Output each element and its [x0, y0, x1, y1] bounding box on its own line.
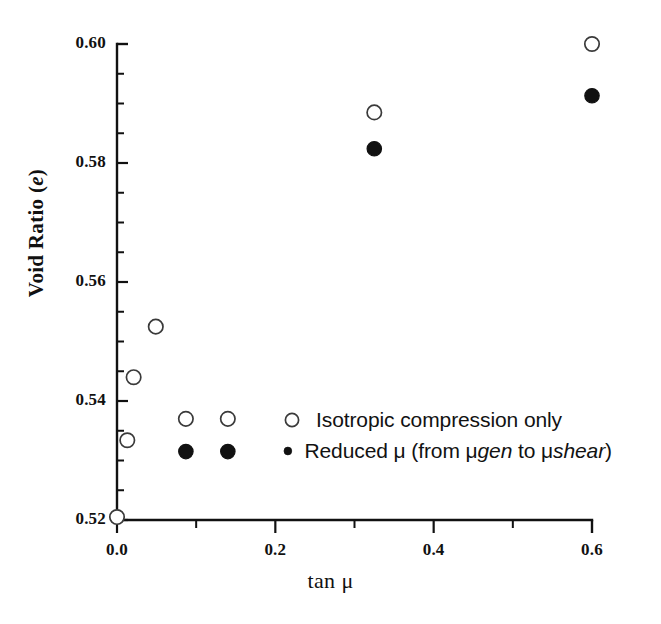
data-point-open-circle — [221, 412, 235, 426]
y-axis-title-wrapper: Void Ratio (e) — [19, 123, 53, 343]
data-point-filled-circle — [585, 89, 599, 103]
x-axis-tick-label: 0.0 — [87, 540, 147, 560]
chart-figure: 0.520.540.560.580.60 0.00.20.40.6 Void R… — [0, 0, 661, 624]
legend-item-label: Reduced μ (from μgen to μshear) — [304, 439, 612, 463]
legend-marker-open-circle-icon — [282, 408, 310, 432]
x-axis-tick-label: 0.2 — [245, 540, 305, 560]
data-point-open-circle — [585, 37, 599, 51]
legend-label-italic-part: gen — [478, 439, 513, 462]
data-point-open-circle — [367, 105, 381, 119]
x-axis-tick-label: 0.6 — [562, 540, 622, 560]
x-axis-title: tan μ — [0, 568, 661, 594]
y-axis-title-symbol: e — [24, 176, 48, 186]
x-axis-tick-label: 0.4 — [404, 540, 464, 560]
data-point-open-circle — [149, 319, 163, 333]
legend-label-text-part: Reduced μ (from μ — [304, 439, 477, 462]
legend-item-label: Isotropic compression only — [316, 408, 562, 432]
legend-item[interactable]: Isotropic compression only — [282, 404, 612, 435]
y-axis-tick-label: 0.56 — [44, 271, 106, 291]
legend-label-text-part: Isotropic compression only — [316, 408, 562, 431]
scatter-plot-canvas — [0, 0, 661, 624]
legend-item[interactable]: Reduced μ (from μgen to μshear) — [282, 435, 612, 466]
legend-marker-filled-circle-icon — [282, 439, 298, 463]
data-point-open-circle — [126, 370, 140, 384]
y-axis-title: Void Ratio (e) — [24, 169, 49, 297]
legend-label-text-part: to μ — [512, 439, 553, 462]
y-axis-tick-label: 0.52 — [44, 509, 106, 529]
legend-label-text-part: ) — [605, 439, 612, 462]
data-point-filled-circle — [179, 444, 193, 458]
y-axis-title-suffix: ) — [24, 169, 48, 176]
chart-legend: Isotropic compression onlyReduced μ (fro… — [282, 404, 612, 466]
data-point-filled-circle — [367, 142, 381, 156]
data-point-filled-circle — [221, 444, 235, 458]
data-point-open-circle — [120, 433, 134, 447]
data-point-open-circle — [179, 412, 193, 426]
data-point-open-circle — [110, 510, 124, 524]
legend-label-italic-part: shear — [553, 439, 605, 462]
y-axis-tick-label: 0.54 — [44, 390, 106, 410]
y-axis-tick-label: 0.60 — [44, 33, 106, 53]
y-axis-tick-label: 0.58 — [44, 152, 106, 172]
y-axis-title-text: Void Ratio ( — [24, 186, 48, 297]
